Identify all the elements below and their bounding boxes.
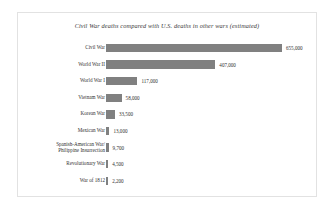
bar-value-label: 117,000 [141,78,157,84]
bar-group: 2,200 [106,177,124,186]
bar-group: 655,000 [106,44,303,53]
bar-row: Civil War655,000 [18,40,318,56]
bar [106,110,115,119]
bar [106,127,109,136]
bar-row: Vietnam War58,000 [18,90,318,106]
category-label: Spanish-American War/Philippine Insurrec… [21,142,105,154]
category-label: War of 1812 [21,178,105,184]
category-label: World War II [21,62,105,68]
bar-value-label: 2,200 [112,178,123,184]
bar-row: War of 18122,200 [18,173,318,189]
bar-value-label: 33,500 [119,111,133,117]
bar-value-label: 4,500 [112,161,123,167]
category-label: World War I [21,78,105,84]
bar [106,60,215,69]
bar [106,160,108,169]
bar-row: Revolutionary War4,500 [18,156,318,172]
bar-group: 58,000 [106,94,140,103]
bar [106,143,109,152]
bar-group: 4,500 [106,160,124,169]
category-label: Civil War [21,45,105,51]
category-label: Revolutionary War [21,161,105,167]
bar [106,94,122,103]
chart-frame: Civil War deaths compared with U.S. deat… [17,12,317,197]
bar-value-label: 655,000 [286,45,303,51]
bar-value-label: 9,700 [113,145,124,151]
bar-row: World War I117,000 [18,73,318,89]
bar-row: World War II407,000 [18,57,318,73]
bar-row: Korean War33,500 [18,106,318,122]
plot-area: Civil War655,000World War II407,000World… [18,37,318,195]
bar [106,77,137,86]
bar-group: 13,000 [106,127,128,136]
category-label: Korean War [21,111,105,117]
bar-value-label: 407,000 [219,62,236,68]
bar [106,177,108,186]
chart-title: Civil War deaths compared with U.S. deat… [18,22,316,29]
bar-value-label: 13,000 [113,128,127,134]
bar-group: 33,500 [106,110,133,119]
bar-group: 117,000 [106,77,158,86]
bar-value-label: 58,000 [126,95,140,101]
bar-row: Spanish-American War/Philippine Insurrec… [18,140,318,156]
bar-row: Mexican War13,000 [18,123,318,139]
category-label: Vietnam War [21,95,105,101]
bar-group: 9,700 [106,143,124,152]
bar [106,44,282,53]
bar-group: 407,000 [106,60,236,69]
category-label: Mexican War [21,128,105,134]
